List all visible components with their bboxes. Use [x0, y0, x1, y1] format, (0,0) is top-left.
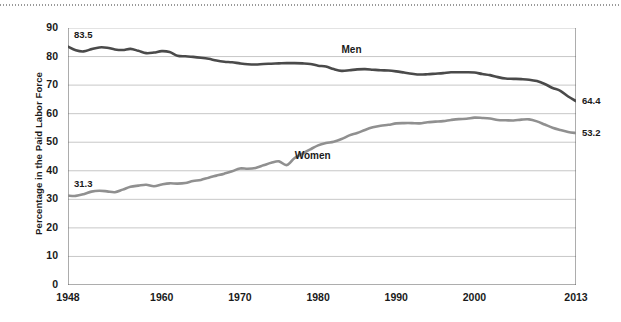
x-tick-label: 2000 [463, 291, 486, 303]
gridlines [68, 28, 576, 256]
y-tick-label: 90 [28, 21, 58, 33]
end-value-women: 53.2 [582, 127, 601, 138]
x-tick-label: 1948 [56, 291, 79, 303]
x-tick-label: 1990 [385, 291, 408, 303]
y-tick-label: 50 [28, 135, 58, 147]
y-tick-label: 20 [28, 221, 58, 233]
y-tick-label: 30 [28, 192, 58, 204]
x-tick-label: 1970 [228, 291, 251, 303]
page-top-dotted-rule [0, 4, 621, 6]
y-tick-label: 80 [28, 50, 58, 62]
x-tick-label: 1980 [306, 291, 329, 303]
series-annotation-women: Women [295, 150, 331, 161]
start-value-women: 31.3 [74, 178, 93, 189]
y-tick-label: 60 [28, 107, 58, 119]
y-tick-label: 70 [28, 78, 58, 90]
y-tick-label: 10 [28, 249, 58, 261]
x-tick-label: 1960 [150, 291, 173, 303]
x-tick-label: 2013 [564, 291, 587, 303]
series-paths [68, 47, 576, 196]
y-tick-label: 40 [28, 164, 58, 176]
y-axis-title: Percentage in the Paid Labor Force [33, 39, 44, 269]
series-annotation-men: Men [342, 44, 362, 55]
series-line-men [68, 47, 576, 102]
chart-page: Percentage in the Paid Labor Force 90807… [0, 0, 621, 322]
start-value-men: 83.5 [74, 29, 93, 40]
y-tick-label: 0 [28, 278, 58, 290]
end-value-men: 64.4 [582, 95, 601, 106]
